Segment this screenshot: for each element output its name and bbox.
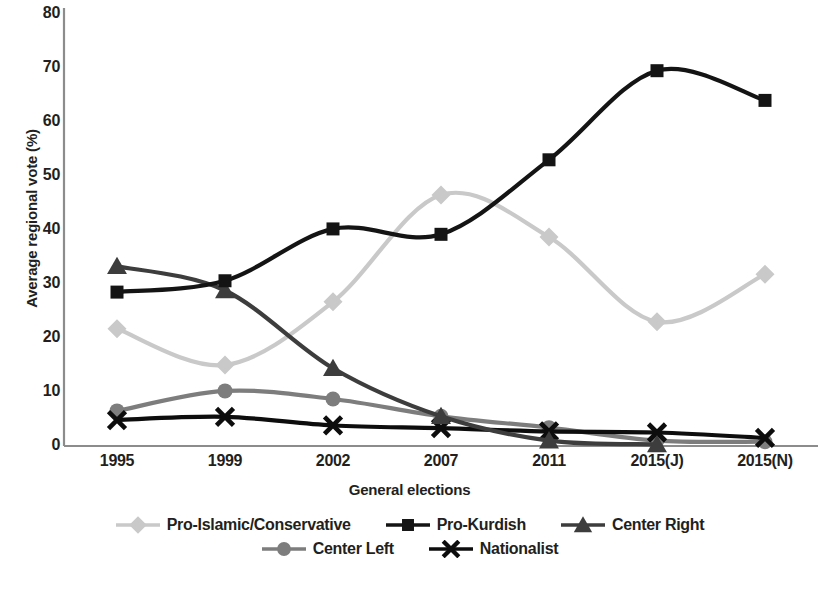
legend-label: Center Left (313, 540, 394, 558)
legend-swatch-diamond (115, 516, 161, 534)
legend-item-pro-kurdish[interactable]: Pro-Kurdish (385, 516, 526, 534)
legend-row-top: Pro-Islamic/ConservativePro-KurdishCente… (0, 516, 819, 534)
legend-swatch-square (385, 516, 431, 534)
data-point-triangle (323, 359, 343, 376)
line-chart: Average regional vote (%) General electi… (0, 0, 819, 590)
data-point-diamond (216, 356, 235, 375)
legend-swatch-x (428, 540, 474, 558)
data-point-square (111, 286, 124, 299)
legend-label: Pro-Islamic/Conservative (167, 516, 351, 534)
legend-label: Pro-Kurdish (437, 516, 526, 534)
legend-row-bottom: Center LeftNationalist (0, 540, 819, 558)
legend-marker-diamond (129, 516, 146, 533)
data-point-square (759, 94, 772, 107)
data-point-diamond (648, 312, 667, 331)
series-pro-islamic-conservative (108, 185, 775, 374)
legend-marker-square (402, 519, 414, 531)
legend-swatch-circle (261, 540, 307, 558)
data-point-square (219, 274, 232, 287)
legend-label: Center Right (612, 516, 704, 534)
plot-area (0, 0, 819, 590)
legend-marker-circle (277, 542, 291, 556)
data-point-circle (326, 392, 341, 407)
data-point-square (435, 228, 448, 241)
data-point-square (327, 222, 340, 235)
data-point-diamond (756, 265, 775, 284)
data-point-square (651, 64, 664, 77)
legend-item-nationalist[interactable]: Nationalist (428, 540, 559, 558)
data-point-square (543, 153, 556, 166)
legend-item-pro-islamic-conservative[interactable]: Pro-Islamic/Conservative (115, 516, 351, 534)
series-line (117, 69, 765, 292)
series-pro-kurdish (111, 64, 772, 298)
legend-label: Nationalist (480, 540, 559, 558)
legend-item-center-right[interactable]: Center Right (560, 516, 704, 534)
series-line (117, 193, 765, 366)
data-point-circle (218, 383, 233, 398)
legend-item-center-left[interactable]: Center Left (261, 540, 394, 558)
data-point-diamond (108, 319, 127, 338)
data-point-diamond (432, 185, 451, 204)
chart-legend: Pro-Islamic/ConservativePro-KurdishCente… (0, 516, 819, 564)
legend-swatch-triangle (560, 516, 606, 534)
